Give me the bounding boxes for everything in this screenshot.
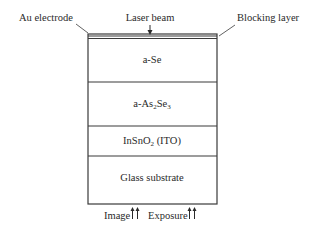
layer-ito-text: InSnO [123,135,150,146]
layer-stack-diagram [0,0,313,234]
layer-a-se-text: a-Se [143,54,162,65]
exposure-arrows-icon [188,207,197,219]
laser-beam-label: Laser beam [126,12,175,24]
layer-a-as2se3-text: a-As [133,98,153,109]
layer-ito-text-tail: (ITO) [154,135,181,146]
subscript: 3 [167,103,171,111]
blocking-layer-leader [219,25,235,36]
image-arrows-icon [131,207,140,219]
layer-glass-substrate-label: Glass substrate [120,172,183,184]
au-electrode-label: Au electrode [19,12,73,24]
exposure-label: Exposure [148,210,188,222]
layer-a-as2se3-label: a-As2Se3 [133,98,170,110]
layer-a-as2se3-text-mid: Se [157,98,168,109]
blocking-layer-label: Blocking layer [237,12,299,24]
layer-ito-label: InSnO2 (ITO) [123,135,181,147]
au-electrode-leader [76,24,88,33]
image-label: Image [104,210,130,222]
layer-a-se-label: a-Se [143,54,162,66]
